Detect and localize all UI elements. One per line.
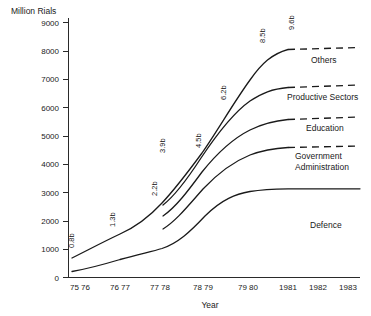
series-line-education <box>163 120 288 217</box>
annotation-value: 6.2b <box>219 85 228 100</box>
chart-figure: Million Rials 9000 8000 7000 6000 5000 4… <box>0 0 371 316</box>
series-line-defence <box>72 189 360 272</box>
y-axis-title: Million Rials <box>11 6 56 16</box>
series-label-government-administration-line2: Administration <box>295 162 349 172</box>
y-tick-label: 0 <box>55 274 60 283</box>
y-tick-label: 1000 <box>41 245 59 254</box>
x-tick-label: 78 79 <box>193 283 214 292</box>
x-axis-title: Year <box>201 300 218 310</box>
series-label-others: Others <box>311 55 337 65</box>
x-tick-label: 76 77 <box>110 283 131 292</box>
series-label-productive-sectors: Productive Sectors <box>287 92 358 102</box>
x-tick-label: 75 76 <box>70 283 91 292</box>
series-projection-others <box>288 48 360 50</box>
x-tick-label: 79 80 <box>238 283 259 292</box>
series-label-defence: Defence <box>310 220 342 230</box>
y-tick-label: 5000 <box>41 132 59 141</box>
y-tick-label: 6000 <box>41 104 59 113</box>
annotation-value: 4.5b <box>194 133 203 148</box>
x-tick-label: 77 78 <box>150 283 171 292</box>
series-projection-education <box>288 117 360 120</box>
x-axis-tick-labels: 75 76 76 77 77 78 78 79 79 80 1981 1982 … <box>70 283 357 292</box>
x-tick-label: 1981 <box>279 283 297 292</box>
series-label-government-administration-line1: Government <box>295 151 342 161</box>
y-tick-label: 3000 <box>41 189 59 198</box>
y-tick-label: 7000 <box>41 75 59 84</box>
chart-svg: Million Rials 9000 8000 7000 6000 5000 4… <box>0 0 371 316</box>
y-tick-label: 2000 <box>41 217 59 226</box>
series-line-government-administration <box>163 148 288 230</box>
y-tick-label: 8000 <box>41 47 59 56</box>
x-tick-label: 1983 <box>339 283 357 292</box>
series-label-education: Education <box>306 123 344 133</box>
y-tick-label: 9000 <box>41 19 59 28</box>
annotation-value: 2.2b <box>150 181 159 196</box>
annotation-value: 1.3b <box>108 212 117 227</box>
annotation-value: 8.5b <box>258 28 267 43</box>
x-tick-label: 1982 <box>309 283 327 292</box>
annotation-value: 3.9b <box>158 138 167 153</box>
y-tick-label: 4000 <box>41 160 59 169</box>
y-axis-tick-labels: 9000 8000 7000 6000 5000 4000 3000 2000 … <box>41 19 59 283</box>
series-projection-government-administration <box>288 146 360 148</box>
annotation-value: 0.8b <box>67 233 76 248</box>
annotation-value: 9.6b <box>287 15 296 30</box>
series-projection-productive-sectors <box>288 85 360 88</box>
